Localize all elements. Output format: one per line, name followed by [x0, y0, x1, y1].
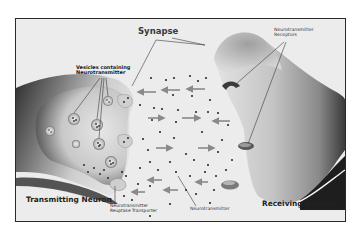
neurotransmitter-label: Neurotransmitter — [190, 207, 230, 212]
synapse-label: Synapse — [138, 27, 178, 36]
receptors-label: Neurotransmitter Receptors — [274, 28, 314, 38]
receiving-neuron-label: Receiving Neuron — [262, 200, 336, 208]
vesicles-label-line2: Neurotransmitter — [76, 70, 130, 75]
reuptake-transporter — [110, 179, 126, 191]
transmitting-neuron-label: Transmitting Neuron — [26, 196, 112, 204]
reuptake-label-line2: Reuptake Transporter — [110, 209, 157, 214]
receptors-label-line2: Receptors — [274, 33, 314, 38]
vesicles-label: Vesicles containing Neurotransmitter — [76, 65, 130, 76]
reuptake-transporter-label: Neurotransmitter Reuptake Transporter — [110, 204, 157, 213]
